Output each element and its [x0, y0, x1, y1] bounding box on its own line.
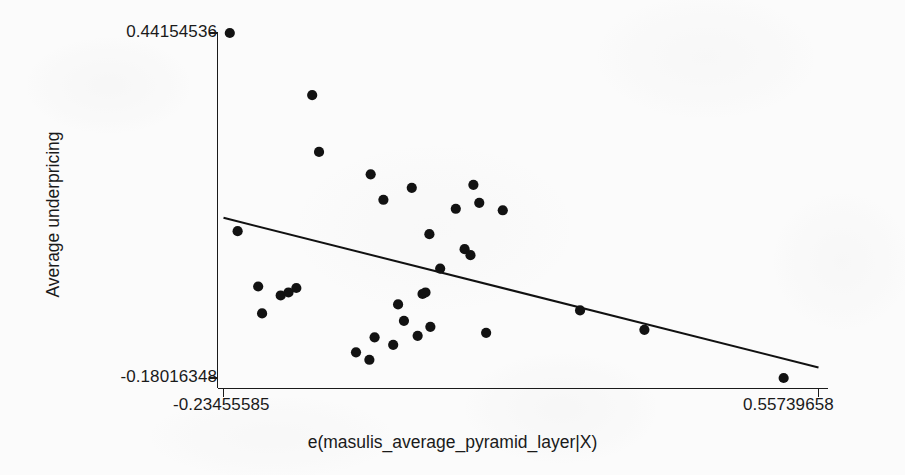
- scatter-point: [425, 322, 435, 332]
- regression-fit-line: [224, 218, 819, 368]
- scatter-point: [378, 195, 388, 205]
- scatter-point: [424, 229, 434, 239]
- x-axis-tick-label-left: -0.23455585: [173, 395, 270, 415]
- scatter-point: [474, 198, 484, 208]
- y-axis-tick-label-bottom: -0.18016348: [120, 367, 217, 387]
- scatter-point: [435, 263, 445, 273]
- scatter-point: [498, 205, 508, 215]
- scatter-point: [451, 204, 461, 214]
- scatter-point: [369, 332, 379, 342]
- scatter-point: [779, 373, 789, 383]
- y-axis-tick-label-top: 0.44154536: [126, 22, 217, 42]
- x-axis-tick-label-right: 0.55739658: [743, 395, 834, 415]
- scatter-point: [307, 90, 317, 100]
- scatter-point: [468, 180, 478, 190]
- scatter-point: [291, 283, 301, 293]
- scatter-point: [314, 147, 324, 157]
- added-variable-plot-figure: 0.44154536 -0.18016348 -0.23455585 0.557…: [0, 0, 905, 475]
- scatter-point: [481, 328, 491, 338]
- scatter-point: [413, 331, 423, 341]
- scatter-point: [225, 28, 235, 38]
- scatter-point: [407, 183, 417, 193]
- scatter-point: [351, 347, 361, 357]
- scatter-point: [639, 325, 649, 335]
- scatter-point: [253, 281, 263, 291]
- scatter-point: [420, 287, 430, 297]
- y-axis-title: Average underpricing: [43, 85, 64, 345]
- scatter-point: [388, 340, 398, 350]
- scatter-point: [393, 299, 403, 309]
- scatter-point: [233, 226, 243, 236]
- scatter-point: [257, 308, 267, 318]
- scatter-point: [366, 169, 376, 179]
- x-axis-title: e(masulis_average_pyramid_layer|X): [0, 432, 905, 453]
- scatter-point: [399, 316, 409, 326]
- scatter-point: [465, 250, 475, 260]
- scatter-point: [364, 355, 374, 365]
- scatter-markers-group: [225, 28, 789, 383]
- scatter-point: [575, 305, 585, 315]
